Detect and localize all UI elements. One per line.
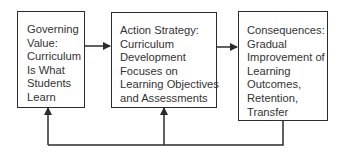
governing-value-box: Governing Value: Curriculum Is What Stud…	[17, 11, 85, 108]
box-line: Retention,	[247, 92, 325, 106]
action-strategy-text: Action Strategy: Curriculum Development …	[120, 24, 219, 106]
box-line: Is What	[27, 64, 81, 78]
box-line: Learn	[27, 91, 81, 105]
box-line: Improvement of	[247, 51, 325, 65]
box-line: Action Strategy:	[120, 24, 219, 38]
consequences-box: Consequences: Gradual Improvement of Lea…	[238, 11, 328, 121]
box-line: Value:	[27, 37, 81, 51]
box-line: Learning	[247, 65, 325, 79]
box-line: Focuses on	[120, 65, 219, 79]
box-line: Development	[120, 51, 219, 65]
box-line: Transfer	[247, 106, 325, 120]
governing-value-text: Governing Value: Curriculum Is What Stud…	[27, 23, 81, 105]
box-line: Students	[27, 77, 81, 91]
box-line: Learning Objectives	[120, 78, 219, 92]
consequences-text: Consequences: Gradual Improvement of Lea…	[247, 24, 325, 119]
feedback-line	[48, 120, 283, 145]
box-line: Governing	[27, 23, 81, 37]
box-line: and Assessments	[120, 92, 219, 106]
box-line: Gradual	[247, 38, 325, 52]
box-line: Curriculum	[120, 38, 219, 52]
box-line: Curriculum	[27, 50, 81, 64]
box-line: Consequences:	[247, 24, 325, 38]
box-line: Outcomes,	[247, 78, 325, 92]
action-strategy-box: Action Strategy: Curriculum Development …	[111, 12, 217, 108]
